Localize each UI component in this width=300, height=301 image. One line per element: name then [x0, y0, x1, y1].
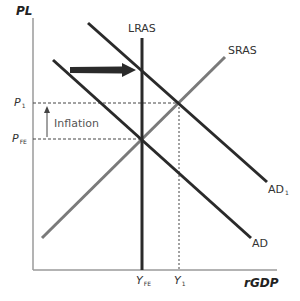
shift-arrow-icon [70, 63, 136, 77]
p1-label: P1 [14, 96, 25, 109]
ad1-label: AD1 [268, 183, 289, 196]
y-axis-label: PL [16, 4, 32, 18]
ad-as-diagram: PL rGDP LRAS SRAS AD AD1 P1 PFE YFE Y1 I… [0, 0, 300, 301]
inflation-arrow-icon [44, 106, 50, 137]
ad-label: AD [252, 237, 268, 250]
sras-label: SRAS [228, 44, 257, 57]
x-axis-label: rGDP [244, 276, 279, 290]
pfe-label: PFE [12, 132, 27, 145]
lras-label: LRAS [128, 22, 156, 35]
sras-curve [42, 57, 225, 238]
y1-label: Y1 [174, 274, 186, 287]
ad-curve [53, 60, 251, 238]
inflation-label: Inflation [54, 117, 99, 130]
yfe-label: YFE [136, 274, 151, 287]
